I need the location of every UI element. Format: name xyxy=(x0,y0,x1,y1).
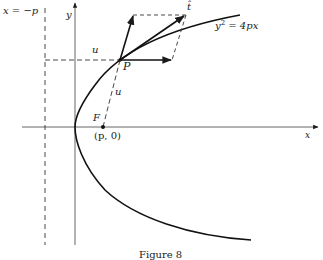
curve-equation-label: y2 = 4px xyxy=(215,20,258,31)
focus-coords-label: (p, 0) xyxy=(94,131,121,141)
directrix-label: x = −p xyxy=(3,6,38,16)
point-p xyxy=(118,58,122,62)
parallelogram-right xyxy=(172,15,186,60)
u-horizontal-label: u xyxy=(92,45,98,55)
x-axis-label: x xyxy=(305,131,310,140)
focus-label: F xyxy=(93,113,100,123)
u-focal-label: u xyxy=(115,87,121,97)
y-axis-label: y xyxy=(66,10,72,20)
tangent-label: t̂ xyxy=(187,2,191,12)
point-p-label: P xyxy=(123,61,130,72)
figure-caption: Figure 8 xyxy=(139,250,182,260)
tangent-vector xyxy=(120,16,184,60)
focus-point xyxy=(101,125,105,129)
